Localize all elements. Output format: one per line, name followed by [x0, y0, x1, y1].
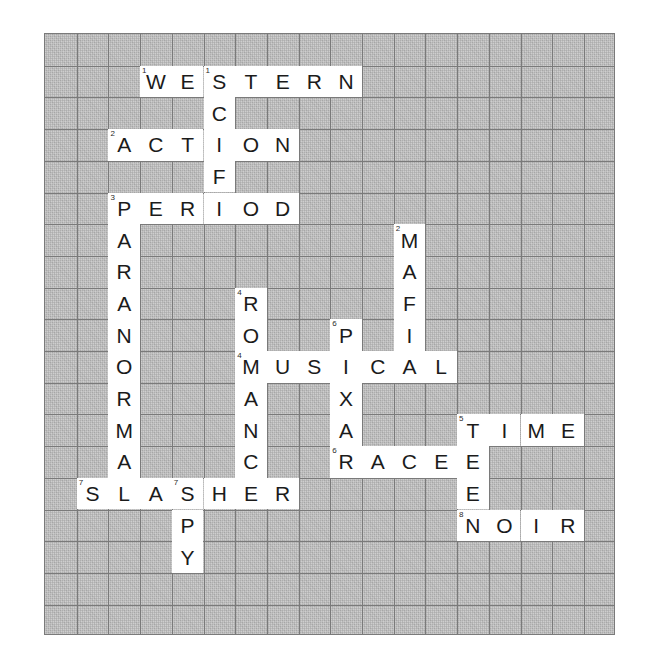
grid-line-vertical [267, 34, 268, 634]
grid-cell[interactable]: M [521, 414, 553, 446]
grid-cell[interactable]: 7S [172, 478, 204, 510]
grid-cell[interactable]: C [140, 129, 172, 161]
grid-cell[interactable]: C [362, 351, 394, 383]
grid-cell[interactable]: D [267, 193, 299, 225]
grid-cell[interactable]: R [172, 193, 204, 225]
grid-cell[interactable]: 6R [330, 446, 362, 478]
grid-cell[interactable]: A [108, 224, 140, 256]
grid-cell[interactable]: E [172, 66, 204, 98]
cell-letter: E [149, 198, 163, 219]
grid-cell[interactable]: R [108, 256, 140, 288]
grid-cell[interactable]: O [489, 510, 521, 542]
grid-cell[interactable]: 4R [235, 288, 267, 320]
grid-cell[interactable]: 7S [77, 478, 109, 510]
grid-cell[interactable]: E [425, 446, 457, 478]
grid-cell[interactable]: M [108, 414, 140, 446]
cell-letter: E [244, 483, 258, 504]
grid-cell[interactable]: P [172, 510, 204, 542]
cell-letter: O [116, 356, 133, 377]
clue-number: 1 [142, 66, 146, 75]
grid-cell[interactable]: N [108, 319, 140, 351]
grid-cell[interactable]: L [425, 351, 457, 383]
grid-cell[interactable]: R [108, 383, 140, 415]
grid-cell[interactable]: E [235, 478, 267, 510]
cell-letter: P [181, 515, 195, 536]
grid-cell[interactable]: I [521, 510, 553, 542]
grid-cell[interactable]: A [362, 446, 394, 478]
grid-cell[interactable]: N [267, 129, 299, 161]
grid-cell[interactable]: 8N [457, 510, 489, 542]
grid-cell[interactable]: A [235, 383, 267, 415]
cell-letter: E [466, 483, 480, 504]
grid-cell[interactable]: A [140, 478, 172, 510]
grid-cell[interactable]: F [204, 161, 236, 193]
grid-cell[interactable]: 5T [457, 414, 489, 446]
grid-cell[interactable]: 6P [330, 319, 362, 351]
grid-cell[interactable]: E [552, 414, 584, 446]
grid-cell[interactable]: I [394, 319, 426, 351]
cell-letter: C [243, 451, 258, 472]
grid-cell[interactable]: A [394, 256, 426, 288]
grid-cell[interactable]: E [140, 193, 172, 225]
grid-cell[interactable]: N [330, 66, 362, 98]
grid-cell[interactable]: E [457, 478, 489, 510]
grid-cell[interactable]: A [108, 288, 140, 320]
clue-number: 6 [332, 446, 336, 455]
grid-cell[interactable]: I [330, 351, 362, 383]
grid-cell[interactable]: 3P [108, 193, 140, 225]
grid-cell[interactable]: H [204, 478, 236, 510]
grid-cell[interactable]: C [235, 446, 267, 478]
grid-cell[interactable]: R [267, 478, 299, 510]
cell-letter: T [181, 134, 194, 155]
grid-cell[interactable]: A [330, 414, 362, 446]
cell-letter: E [276, 71, 290, 92]
cell-letter: W [146, 71, 166, 92]
grid-cell[interactable]: 1W [140, 66, 172, 98]
crossword-grid[interactable]: 1WE1STERNC2ACTIONF3PERIODA2MRAA4RFNO6PIO… [44, 33, 615, 635]
clue-number: 7 [79, 478, 83, 487]
cell-letter: T [466, 420, 479, 441]
cell-letter: M [242, 356, 260, 377]
grid-line-vertical [521, 34, 522, 634]
grid-cell[interactable]: O [108, 351, 140, 383]
grid-cell[interactable]: A [108, 446, 140, 478]
grid-cell[interactable]: X [330, 383, 362, 415]
grid-cell[interactable]: L [108, 478, 140, 510]
cell-letter: S [212, 71, 226, 92]
grid-cell[interactable]: E [267, 66, 299, 98]
grid-cell[interactable]: T [172, 129, 204, 161]
cell-letter: Y [181, 547, 195, 568]
grid-cell[interactable]: 1S [204, 66, 236, 98]
cell-letter: I [407, 325, 413, 346]
cell-letter: A [371, 451, 385, 472]
grid-line-vertical [299, 34, 300, 634]
cell-letter: M [115, 420, 133, 441]
grid-cell[interactable]: I [204, 129, 236, 161]
grid-cell[interactable]: I [204, 193, 236, 225]
clue-number: 7 [174, 478, 178, 487]
grid-cell[interactable]: R [552, 510, 584, 542]
grid-cell[interactable]: R [299, 66, 331, 98]
grid-line-vertical [552, 34, 553, 634]
clue-number: 3 [110, 193, 114, 202]
grid-cell[interactable]: C [394, 446, 426, 478]
grid-cell[interactable]: N [235, 414, 267, 446]
grid-cell[interactable]: T [235, 66, 267, 98]
grid-cell[interactable]: S [299, 351, 331, 383]
grid-cell[interactable]: 4M [235, 351, 267, 383]
grid-cell[interactable]: U [267, 351, 299, 383]
grid-cell[interactable]: E [457, 446, 489, 478]
grid-cell[interactable]: C [204, 97, 236, 129]
grid-cell[interactable]: O [235, 193, 267, 225]
grid-line-vertical [362, 34, 363, 634]
cell-letter: F [403, 293, 416, 314]
grid-cell[interactable]: A [394, 351, 426, 383]
grid-cell[interactable]: O [235, 129, 267, 161]
grid-cell[interactable]: O [235, 319, 267, 351]
grid-cell[interactable]: I [489, 414, 521, 446]
grid-cell[interactable]: Y [172, 541, 204, 573]
grid-cell[interactable]: 2A [108, 129, 140, 161]
grid-cell[interactable]: F [394, 288, 426, 320]
cell-letter: L [118, 483, 130, 504]
grid-cell[interactable]: 2M [394, 224, 426, 256]
